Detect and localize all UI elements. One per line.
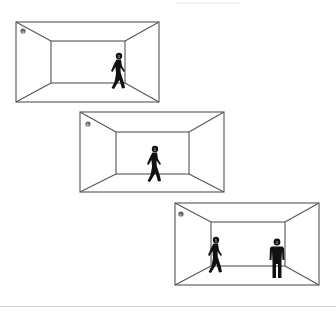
room-edge-line xyxy=(80,112,116,132)
room-edge-line xyxy=(285,266,319,285)
room-edge-line xyxy=(189,112,224,132)
room-edge-line xyxy=(80,174,116,192)
panel-a: a 1 xyxy=(16,22,159,102)
room-edge-line xyxy=(125,83,159,102)
room-edge-line xyxy=(189,174,224,192)
figure-canvas: a 1 b 1 c 1 2 xyxy=(0,0,336,311)
standing-person-icon xyxy=(270,239,285,278)
room-edge-line xyxy=(16,83,51,102)
panel-b: b 1 xyxy=(80,112,224,192)
room-edge-line xyxy=(125,22,159,41)
room-back-wall xyxy=(51,41,125,83)
room-edge-line xyxy=(175,266,211,285)
panel-label: c xyxy=(180,212,182,217)
panel-c: c 1 2 xyxy=(175,203,319,285)
bottom-divider xyxy=(0,306,336,307)
room-edge-line xyxy=(285,203,319,222)
